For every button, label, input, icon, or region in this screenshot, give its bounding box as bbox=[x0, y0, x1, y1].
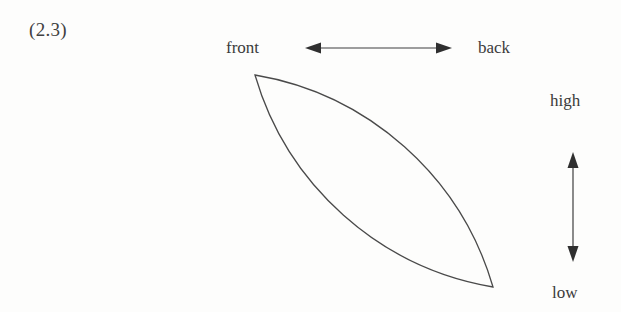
arrowhead-left-icon bbox=[305, 43, 321, 54]
figure-page: (2.3) front back high low bbox=[0, 0, 621, 312]
arrowhead-down-icon bbox=[568, 246, 579, 262]
arrowhead-up-icon bbox=[568, 152, 579, 168]
lens-shape bbox=[255, 75, 493, 287]
arrowhead-right-icon bbox=[436, 43, 452, 54]
horizontal-double-arrow-icon bbox=[305, 43, 452, 54]
vertical-double-arrow-icon bbox=[568, 152, 579, 262]
figure-artwork bbox=[0, 0, 621, 312]
